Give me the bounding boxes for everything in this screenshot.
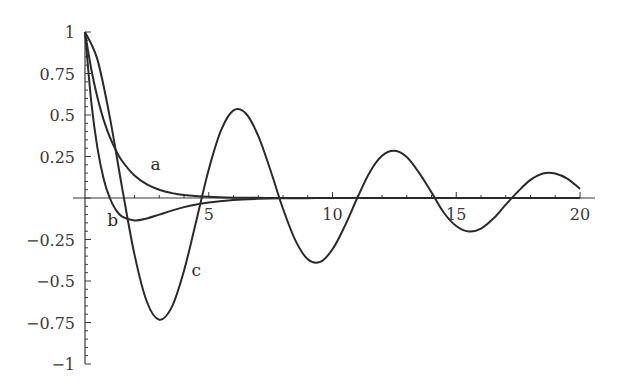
curve-label-b: b — [107, 210, 118, 230]
line-chart: 10.750.50.25−0.25−0.5−0.75−1 5101520 abc — [0, 0, 620, 391]
plot-curves — [85, 32, 580, 320]
y-tick-label: 0.25 — [39, 148, 75, 167]
curve-label-c: c — [191, 260, 201, 280]
y-tick-label: −0.75 — [26, 314, 75, 333]
y-tick-label: 0.75 — [39, 65, 75, 84]
y-tick-label: −0.25 — [26, 231, 75, 250]
curve-label-a: a — [151, 154, 161, 174]
x-axis: 5101520 — [73, 192, 595, 224]
x-tick-label: 10 — [322, 205, 342, 224]
y-tick-label: 1 — [65, 23, 75, 42]
y-tick-label: −1 — [51, 355, 75, 374]
x-tick-label: 20 — [570, 205, 590, 224]
y-tick-label: −0.5 — [36, 272, 75, 291]
y-tick-label: 0.5 — [50, 106, 75, 125]
x-tick-label: 15 — [446, 205, 466, 224]
curve-c — [85, 32, 580, 320]
x-tick-label: 5 — [204, 205, 214, 224]
